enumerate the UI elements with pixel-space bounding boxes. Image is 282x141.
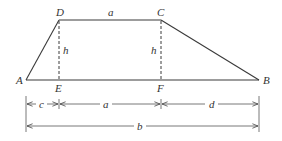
side-AD — [26, 20, 59, 80]
trapezoid-outline — [26, 20, 259, 80]
trapezoid-diagram: D C A B E F a h h c a d b — [0, 0, 282, 141]
dimension-row-2: b — [27, 120, 258, 132]
side-CB — [161, 20, 259, 80]
dimension-label-a: a — [103, 98, 109, 110]
dimension-label-c: c — [39, 98, 44, 110]
vertex-label-B: B — [263, 74, 270, 86]
height-right-label: h — [151, 44, 157, 56]
dimension-label-d: d — [209, 98, 215, 110]
dimension-label-b: b — [137, 120, 143, 132]
top-base-label: a — [108, 6, 114, 18]
vertex-label-A: A — [15, 74, 23, 86]
dimension-row-1: c a d — [27, 98, 258, 110]
vertex-label-F: F — [156, 82, 164, 94]
height-left-label: h — [63, 44, 69, 56]
vertex-label-D: D — [55, 6, 64, 18]
vertex-label-E: E — [54, 82, 62, 94]
vertex-label-C: C — [157, 6, 165, 18]
